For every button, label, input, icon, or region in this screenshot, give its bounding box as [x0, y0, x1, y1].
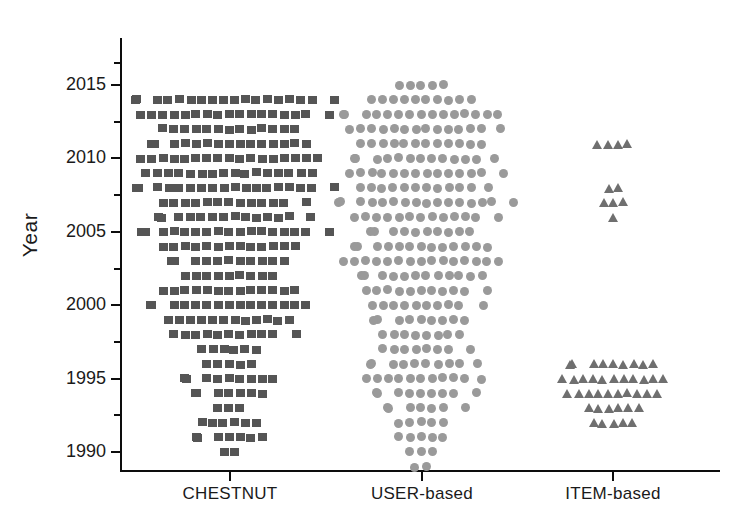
data-point: [202, 374, 211, 382]
y-tick-major: [111, 157, 120, 159]
data-point: [629, 359, 639, 368]
data-point: [467, 95, 476, 104]
data-point: [389, 360, 398, 369]
data-point: [438, 243, 447, 252]
data-point: [175, 316, 184, 324]
data-point: [351, 154, 360, 163]
data-point: [433, 139, 442, 148]
data-point: [247, 227, 256, 235]
data-point: [257, 301, 266, 309]
data-point: [258, 155, 267, 163]
data-point: [423, 169, 432, 178]
data-point: [191, 389, 200, 397]
y-tick-label: 2010: [44, 147, 106, 168]
data-point: [593, 404, 603, 413]
data-point: [296, 184, 305, 192]
data-point: [411, 228, 420, 237]
data-point: [449, 286, 458, 295]
data-point: [257, 199, 266, 207]
data-point: [389, 272, 398, 281]
data-point: [472, 257, 481, 266]
data-point: [231, 183, 240, 191]
data-point: [269, 199, 278, 207]
data-point: [400, 95, 409, 104]
data-point: [622, 388, 632, 397]
data-point: [484, 183, 493, 192]
data-point: [439, 403, 448, 412]
data-point: [483, 243, 492, 252]
data-point: [274, 96, 283, 104]
data-point: [246, 140, 255, 148]
data-point: [146, 301, 155, 309]
data-point: [439, 418, 448, 427]
data-point: [203, 139, 212, 147]
data-point: [384, 242, 393, 251]
data-point: [219, 316, 228, 324]
data-point: [174, 169, 183, 177]
data-point: [372, 110, 381, 119]
y-tick-minor: [114, 62, 120, 64]
data-point: [366, 360, 375, 369]
data-point: [433, 95, 442, 104]
data-point: [280, 154, 289, 162]
data-point: [334, 198, 343, 207]
data-point: [235, 404, 244, 412]
data-point: [257, 110, 266, 118]
data-point: [604, 184, 614, 193]
data-point: [225, 433, 234, 441]
data-point: [336, 197, 345, 206]
data-point: [421, 124, 430, 133]
data-point: [241, 95, 250, 103]
data-point: [592, 140, 602, 149]
data-point: [175, 95, 184, 103]
data-point: [377, 184, 386, 193]
data-point: [247, 389, 256, 397]
data-point: [330, 96, 339, 104]
data-point: [356, 139, 365, 148]
data-point: [191, 199, 200, 207]
y-tick-label: 2005: [44, 221, 106, 242]
data-point: [186, 184, 195, 192]
data-point: [291, 154, 300, 162]
data-point: [405, 418, 414, 427]
data-point: [417, 242, 426, 251]
data-point: [170, 227, 179, 235]
data-point: [202, 154, 211, 162]
data-point: [417, 257, 426, 266]
data-point: [628, 374, 638, 383]
data-point: [153, 169, 162, 177]
data-point: [399, 360, 408, 369]
data-point: [220, 345, 229, 353]
data-point: [136, 111, 145, 119]
data-point: [449, 373, 458, 382]
data-point: [325, 111, 334, 119]
data-point: [251, 96, 260, 104]
data-point: [388, 183, 397, 192]
data-point: [412, 198, 421, 207]
data-point: [192, 433, 201, 441]
data-point: [639, 375, 649, 384]
data-point: [483, 286, 492, 295]
data-point: [246, 257, 255, 265]
data-point: [395, 242, 404, 251]
data-point: [197, 184, 206, 192]
data-point: [362, 286, 371, 295]
data-point: [642, 389, 652, 398]
data-point: [490, 154, 499, 163]
data-point: [439, 213, 448, 222]
data-point: [181, 242, 190, 250]
data-point: [395, 81, 404, 90]
data-point: [236, 301, 245, 309]
data-point: [478, 271, 487, 280]
y-tick-minor: [114, 194, 120, 196]
data-point: [191, 301, 200, 309]
data-point: [147, 155, 156, 163]
data-point: [658, 374, 668, 383]
data-point: [340, 110, 349, 119]
data-point: [384, 374, 393, 383]
data-point: [609, 419, 619, 428]
x-tick: [612, 472, 614, 481]
data-point: [193, 434, 202, 442]
data-point: [383, 110, 392, 119]
data-point: [246, 243, 255, 251]
